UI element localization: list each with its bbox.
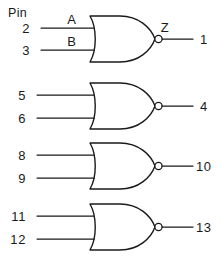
pin-label-2: 2 xyxy=(4,22,30,35)
circuit-schematic xyxy=(0,0,221,264)
pin-label-13: 13 xyxy=(196,221,221,234)
pin-label-5: 5 xyxy=(0,89,26,102)
gate-4-nor-body xyxy=(90,204,155,250)
gate-3-group[interactable] xyxy=(37,143,193,189)
pin-label-1: 1 xyxy=(200,33,221,46)
pin-label-6: 6 xyxy=(0,112,26,125)
gate-2-nor-body xyxy=(90,83,155,129)
signal-label-b: B xyxy=(62,35,82,48)
pin-label-9: 9 xyxy=(0,172,26,185)
pin-label-11: 11 xyxy=(0,210,26,223)
signal-label-z: Z xyxy=(155,21,175,34)
signal-label-a: A xyxy=(62,13,82,26)
diagram-canvas: Pin 2 3 A B Z 1 5 6 4 8 9 10 11 12 13 xyxy=(0,0,221,264)
pin-label-3: 3 xyxy=(4,44,30,57)
gate-1-nor-body xyxy=(90,16,155,62)
gate-4-group[interactable] xyxy=(37,204,193,250)
pin-label-4: 4 xyxy=(200,100,221,113)
gate-1-inversion-bubble xyxy=(155,35,162,42)
pin-label-10: 10 xyxy=(196,160,221,173)
gate-2-group[interactable] xyxy=(37,83,193,129)
gate-3-inversion-bubble xyxy=(155,162,162,169)
pin-label-12: 12 xyxy=(0,233,26,246)
pin-column-header: Pin xyxy=(8,7,27,20)
gate-3-nor-body xyxy=(90,143,155,189)
gate-4-inversion-bubble xyxy=(155,223,162,230)
gate-2-inversion-bubble xyxy=(155,102,162,109)
pin-label-8: 8 xyxy=(0,149,26,162)
